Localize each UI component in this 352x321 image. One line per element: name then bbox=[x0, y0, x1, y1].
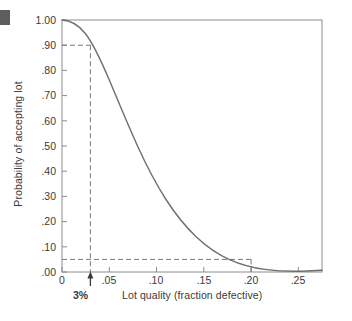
plot-frame bbox=[62, 20, 322, 272]
y-tick-label-0.80: .80 bbox=[26, 64, 56, 76]
x-tick-label-0.05: .05 bbox=[94, 274, 124, 286]
x-axis-title: Lot quality (fraction defective) bbox=[122, 289, 262, 301]
y-tick-label-0.60: .60 bbox=[26, 115, 56, 127]
x-tick-label-0.20: .20 bbox=[236, 274, 266, 286]
x-tick-label-0.25: .25 bbox=[283, 274, 313, 286]
y-tick-label-0.40: .40 bbox=[26, 165, 56, 177]
y-tick-label-0.70: .70 bbox=[26, 89, 56, 101]
y-axis-title: Probability of accepting lot bbox=[12, 44, 24, 244]
y-tick-label-0.90: .90 bbox=[26, 39, 56, 51]
x-tick-label-0: 0 bbox=[47, 274, 77, 286]
three-percent-label: 3% bbox=[73, 289, 88, 301]
y-tick-label-0.50: .50 bbox=[26, 140, 56, 152]
x-tick-label-0.10: .10 bbox=[141, 274, 171, 286]
three-percent-arrow-icon bbox=[87, 272, 93, 287]
y-tick-label-1.00: 1.00 bbox=[26, 14, 56, 26]
x-tick-label-0.15: .15 bbox=[189, 274, 219, 286]
oc-curve-figure: 1.00 .90 .80 .70 .60 .50 .40 .30 .20 .10… bbox=[0, 0, 352, 321]
y-tick-label-0.20: .20 bbox=[26, 215, 56, 227]
y-tick-label-0.10: .10 bbox=[26, 241, 56, 253]
y-tick-label-0.30: .30 bbox=[26, 190, 56, 202]
